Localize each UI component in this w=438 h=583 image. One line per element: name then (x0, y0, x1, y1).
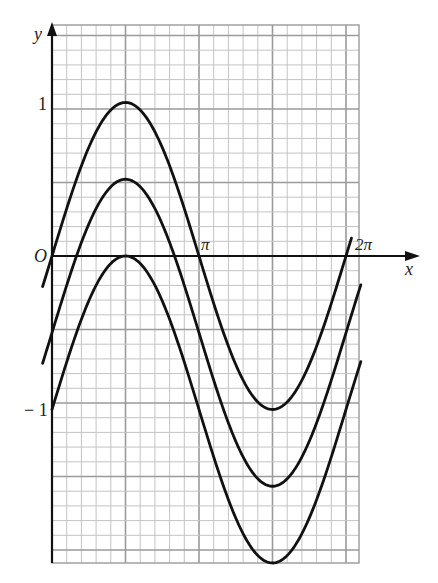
x-tick-2pi: 2π (355, 235, 373, 254)
axes (47, 22, 420, 563)
curve-series-2 (52, 256, 361, 563)
curves (43, 103, 361, 563)
y-axis-arrow-icon (47, 22, 57, 36)
y-axis-label: y (32, 24, 42, 44)
y-tick-minus-1: − 1 (24, 400, 48, 420)
curve-series-1 (43, 179, 361, 486)
sine-graph: y x O π 2π 1 − 1 (0, 0, 438, 583)
y-tick-1: 1 (38, 94, 47, 114)
grid (52, 25, 359, 563)
grid-border (52, 25, 359, 563)
axis-labels: y x O π 2π 1 − 1 (24, 24, 413, 420)
origin-label: O (34, 246, 47, 266)
x-tick-pi: π (201, 235, 210, 254)
x-axis-label: x (404, 259, 413, 279)
